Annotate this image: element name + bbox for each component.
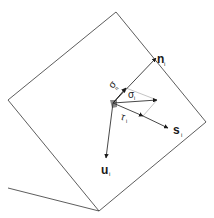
- plane-square: [8, 12, 206, 211]
- guide-line-tau: [143, 100, 157, 116]
- label-u: u: [101, 163, 108, 177]
- label-sigma-i-sub: i: [134, 95, 135, 101]
- vector-sigma-n: [113, 88, 126, 103]
- label-s: s: [173, 123, 180, 137]
- label-s-sub: i: [181, 132, 182, 138]
- label-tau-i-sub: i: [126, 118, 127, 124]
- label-u-sub: i: [109, 171, 110, 177]
- ground-line: [8, 188, 99, 211]
- label-n-sub: i: [164, 61, 165, 67]
- vector-s: [143, 116, 168, 128]
- vector-u: [106, 103, 113, 158]
- stress-diagram: n i σ n σ i τ i s i u i: [0, 0, 214, 218]
- vector-tau-i: [113, 103, 143, 116]
